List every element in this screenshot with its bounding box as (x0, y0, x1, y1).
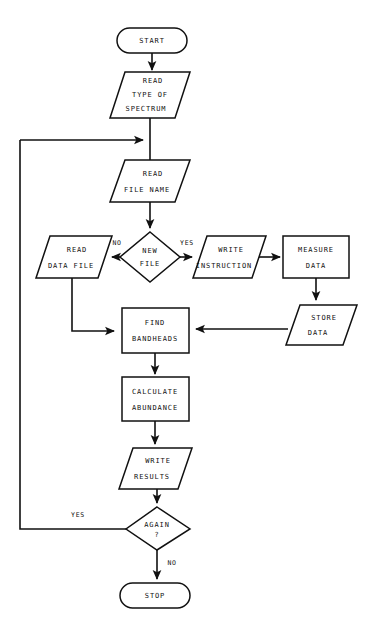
read-file-name-line-1: READ (143, 170, 163, 178)
write-results-parallelogram (119, 448, 192, 489)
calculate-abundance-rect (122, 377, 189, 421)
find-bandheads-line-1: FIND (145, 319, 165, 327)
edge-label-yes-new-file: YES (180, 239, 194, 247)
again-line-1: AGAIN (144, 521, 170, 529)
calculate-abundance-line-1: CALCULATE (132, 388, 178, 396)
new-file-line-1: NEW (142, 247, 157, 255)
node-find-bandheads[interactable]: FIND BANDHEADS (122, 308, 189, 353)
flowchart-svg: READ DATA FILE --> WRITE INSTRUCTION -->… (0, 0, 369, 628)
node-store-data[interactable]: STORE DATA (286, 305, 357, 345)
write-results-line-2: RESULTS (134, 473, 170, 481)
node-write-instruction[interactable]: WRITE INSTRUCTION (193, 236, 266, 278)
stop-label: STOP (145, 592, 165, 600)
read-type-of-spectrum-line-1: READ (143, 77, 163, 85)
read-file-name-line-2: FILE NAME (124, 186, 170, 194)
edge-label-no-new-file: NO (112, 239, 121, 247)
read-type-of-spectrum-line-3: SPECTRUM (126, 105, 167, 113)
flowchart-canvas: READ DATA FILE --> WRITE INSTRUCTION -->… (0, 0, 369, 628)
again-line-2: ? (154, 531, 159, 539)
calculate-abundance-line-2: ABUNDANCE (132, 404, 178, 412)
store-data-line-2: DATA (308, 329, 328, 337)
store-data-parallelogram (286, 305, 357, 345)
node-again[interactable]: AGAIN ? (126, 507, 190, 550)
edge-label-yes-again: YES (71, 511, 85, 519)
edge-read-data-file-to-find-bandheads (72, 278, 114, 331)
node-read-file-name[interactable]: READ FILE NAME (110, 160, 190, 202)
find-bandheads-line-2: BANDHEADS (132, 335, 178, 343)
node-calculate-abundance[interactable]: CALCULATE ABUNDANCE (122, 377, 189, 421)
edge-label-no-again: NO (167, 559, 176, 567)
read-data-file-line-2: DATA FILE (48, 262, 94, 270)
node-measure-data[interactable]: MEASURE DATA (283, 236, 349, 278)
read-type-of-spectrum-line-2: TYPE OF (132, 91, 168, 99)
find-bandheads-rect (122, 308, 189, 353)
write-instruction-line-1: WRITE (218, 246, 244, 254)
write-instruction-parallelogram (193, 236, 266, 278)
node-start[interactable]: START (117, 28, 187, 53)
node-stop[interactable]: STOP (120, 583, 190, 608)
measure-data-line-2: DATA (306, 262, 326, 270)
read-data-file-line-1: READ (67, 246, 87, 254)
write-results-line-1: WRITE (145, 457, 171, 465)
new-file-line-2: FILE (140, 260, 160, 268)
node-read-data-file[interactable]: READ DATA FILE (36, 236, 112, 278)
measure-data-line-1: MEASURE (298, 246, 334, 254)
node-new-file[interactable]: NEW FILE (120, 232, 180, 282)
read-file-name-parallelogram (110, 160, 190, 202)
write-instruction-line-2: INSTRUCTION (196, 262, 252, 270)
read-data-file-parallelogram (36, 236, 112, 278)
node-write-results[interactable]: WRITE RESULTS (119, 448, 192, 489)
store-data-line-1: STORE (311, 314, 337, 322)
start-label: START (139, 37, 165, 45)
measure-data-rect (283, 236, 349, 278)
new-file-diamond (120, 232, 180, 282)
node-read-type-of-spectrum[interactable]: READ TYPE OF SPECTRUM (110, 72, 190, 118)
